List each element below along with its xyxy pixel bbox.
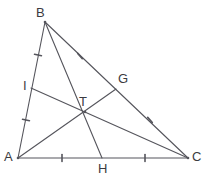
diagram-canvas: [0, 0, 207, 185]
vertex-label-c: C: [192, 150, 201, 163]
triangle-sides: [18, 22, 188, 158]
tick-ab-lower: [23, 119, 30, 120]
vertex-dot-c: [187, 157, 190, 160]
vertex-dots: [17, 21, 190, 160]
congruence-tick-marks: [23, 53, 153, 161]
side-bc: [45, 22, 188, 158]
vertex-label-g: G: [118, 72, 128, 85]
vertex-dot-a: [17, 157, 20, 160]
geometry-diagram: A B C G H I T: [0, 0, 207, 185]
vertex-label-a: A: [4, 150, 13, 163]
median-lines: [18, 22, 188, 158]
median-c-to-i: [31, 88, 188, 158]
median-a-to-g: [18, 89, 116, 158]
vertex-dot-b: [44, 21, 47, 24]
vertex-label-t: T: [79, 95, 87, 108]
vertex-label-b: B: [36, 6, 45, 19]
vertex-dot-t: [84, 111, 87, 114]
tick-bc-upper: [78, 53, 83, 58]
tick-ab-upper: [35, 54, 42, 55]
median-b-to-h: [45, 22, 102, 158]
vertex-label-i: I: [23, 79, 27, 92]
vertex-label-h: H: [98, 162, 107, 175]
